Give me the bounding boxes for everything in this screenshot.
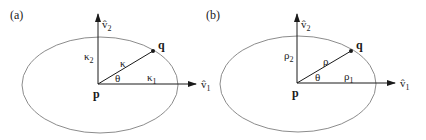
panel-b-v1-label: v̂1: [400, 77, 410, 92]
panel-a-kappa-label: κ: [120, 57, 126, 69]
panel-a-v2-label: v̂2: [102, 18, 112, 33]
panel-b-rho2-label: ρ2: [284, 49, 294, 64]
panel-a-p-label: p: [93, 87, 100, 101]
panel-b-p-label: p: [292, 86, 299, 100]
panel-a-q-label: q: [158, 38, 165, 52]
panel-a: (a) q p v̂2 v̂1 κ2 κ θ κ1: [10, 8, 211, 133]
panel-a-point-q: [151, 49, 155, 53]
panel-b-label: (b): [206, 8, 220, 22]
panel-b-theta-label: θ: [315, 71, 320, 83]
panel-a-kappa2-label: κ2: [84, 50, 94, 65]
ellipse-diagram-figure: (a) q p v̂2 v̂1 κ2 κ θ κ1 (b): [0, 0, 426, 140]
panel-b-rho-label: ρ: [323, 55, 329, 67]
panel-b-point-q: [349, 49, 353, 53]
panel-b-q-label: q: [356, 38, 363, 52]
diagram-canvas: (a) q p v̂2 v̂1 κ2 κ θ κ1 (b): [0, 0, 426, 140]
panel-a-v1-label: v̂1: [201, 78, 211, 93]
panel-b: (b) q p v̂2 v̂1 ρ2 ρ θ ρ1: [206, 8, 410, 132]
panel-a-label: (a): [10, 8, 23, 22]
panel-b-v2-label: v̂2: [301, 18, 311, 33]
panel-a-theta-label: θ: [115, 72, 120, 84]
